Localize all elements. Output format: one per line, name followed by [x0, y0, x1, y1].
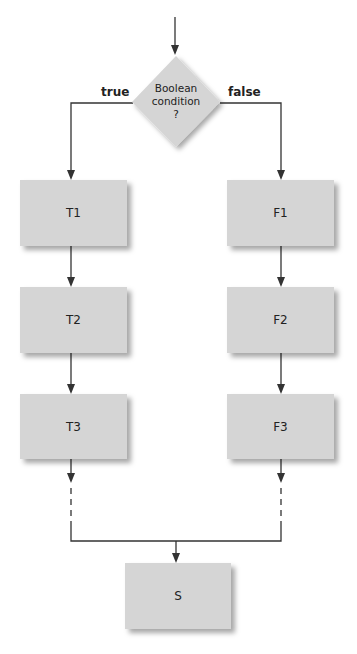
process-box-t1: T1 [20, 180, 127, 246]
decision-label-line-2: condition [136, 95, 216, 108]
flowchart: Boolean condition ? true false T1 T2 T3 … [0, 0, 357, 654]
process-box-t2: T2 [20, 287, 127, 353]
process-box-f1: F1 [227, 180, 334, 246]
process-box-s: S [125, 563, 231, 629]
false-branch-label: false [228, 85, 261, 99]
process-box-f3: F3 [227, 394, 334, 459]
decision-label-line-3: ? [136, 108, 216, 121]
process-box-f2: F2 [227, 287, 334, 353]
decision-label-line-1: Boolean [136, 82, 216, 95]
process-box-t3: T3 [20, 394, 127, 459]
decision-label: Boolean condition ? [136, 82, 216, 121]
true-branch-label: true [101, 85, 129, 99]
